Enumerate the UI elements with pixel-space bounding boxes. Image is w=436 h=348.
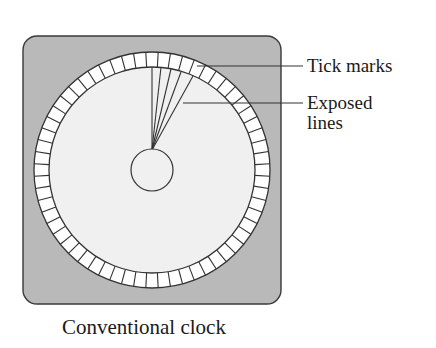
tick-mark bbox=[34, 164, 49, 165]
tick-marks-label: Tick marks bbox=[307, 56, 392, 76]
exposed-lines-label-line1: Exposed bbox=[307, 93, 372, 113]
tick-mark bbox=[146, 273, 147, 288]
exposed-lines-label-line2: lines bbox=[307, 113, 372, 133]
tick-mark bbox=[157, 273, 158, 288]
tick-mark bbox=[255, 164, 270, 165]
clock-diagram bbox=[0, 0, 436, 348]
tick-mark bbox=[255, 175, 270, 176]
tick-mark bbox=[157, 52, 158, 67]
tick-mark bbox=[34, 175, 49, 176]
clock-hub bbox=[131, 149, 173, 191]
exposed-lines-label: Exposed lines bbox=[307, 93, 372, 133]
figure-caption: Conventional clock bbox=[62, 317, 226, 337]
tick-mark bbox=[146, 52, 147, 67]
